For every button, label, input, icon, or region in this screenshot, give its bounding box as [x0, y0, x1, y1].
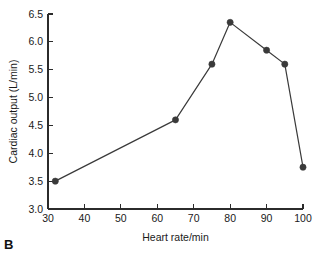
x-tick-label: 100: [294, 212, 312, 224]
y-tick-label: 6.0: [28, 35, 43, 47]
x-tick-label: 30: [42, 212, 54, 224]
data-series-line: [55, 22, 303, 181]
x-axis-tick-labels: 30405060708090100: [42, 212, 312, 224]
data-point-marker: [300, 164, 306, 170]
x-tick-label: 70: [188, 212, 200, 224]
x-axis-title: Heart rate/min: [142, 231, 209, 243]
x-tick-label: 60: [151, 212, 163, 224]
data-point-marker: [209, 61, 215, 67]
data-point-marker: [227, 19, 233, 25]
y-axis-title: Cardiac output (L/min): [7, 60, 19, 164]
data-point-marker: [263, 47, 269, 53]
figure-panel-b: 3.03.54.04.55.05.56.06.5 304050607080901…: [0, 0, 324, 263]
data-point-marker: [282, 61, 288, 67]
data-point-marker: [172, 117, 178, 123]
y-tick-label: 4.5: [28, 119, 43, 131]
y-tick-label: 6.5: [28, 8, 43, 20]
data-point-marker: [52, 178, 58, 184]
y-tick-label: 3.0: [28, 203, 43, 215]
x-tick-label: 40: [79, 212, 91, 224]
panel-label: B: [4, 238, 13, 251]
x-tick-label: 80: [224, 212, 236, 224]
x-axis-tick-marks: [48, 204, 303, 209]
data-point-markers: [52, 19, 306, 184]
y-tick-label: 3.5: [28, 175, 43, 187]
y-axis-tick-labels: 3.03.54.04.55.05.56.06.5: [28, 8, 43, 215]
cardiac-output-line-chart: 3.03.54.04.55.05.56.06.5 304050607080901…: [0, 0, 324, 263]
y-tick-label: 4.0: [28, 147, 43, 159]
y-tick-label: 5.0: [28, 91, 43, 103]
y-tick-label: 5.5: [28, 63, 43, 75]
x-tick-label: 50: [115, 212, 127, 224]
x-tick-label: 90: [261, 212, 273, 224]
